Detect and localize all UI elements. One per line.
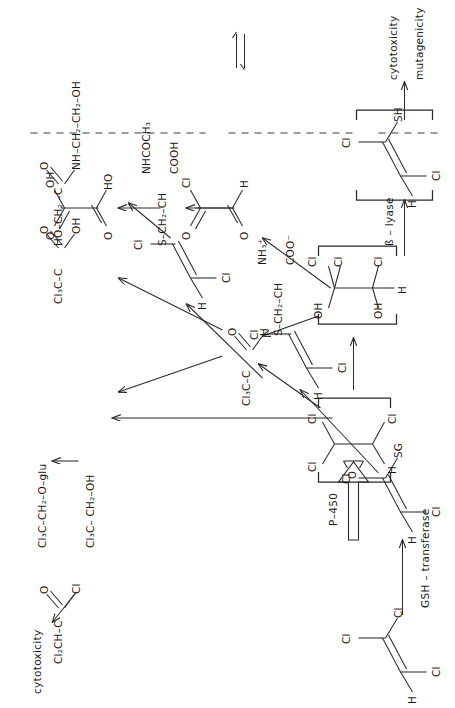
thiol-cl-b: Cl (430, 170, 441, 181)
gsh-atom-h: H (406, 536, 417, 544)
cys-cl-b: Cl (336, 362, 347, 373)
acyl-h: H (238, 180, 249, 188)
oxalic-ho: HO (102, 173, 113, 190)
merc-cl-t: Cl (132, 239, 143, 250)
p450-label: P–450 (326, 493, 338, 526)
amide-o: O (38, 162, 49, 170)
tce-atom-h: H (406, 696, 417, 704)
acyl-cl: Cl (180, 177, 191, 188)
figure-canvas: H Cl Cl Cl GSH – transferase H Cl Cl SG … (0, 0, 455, 708)
merc-acetamido-group: NHCOCH₃ (140, 122, 151, 174)
merc-h: H (196, 302, 207, 310)
epoxide-cl-br: Cl (386, 413, 397, 424)
arrow-to-acyl-chloride (262, 238, 330, 288)
cytotoxicity-left-label: cytotoxicity (30, 630, 42, 695)
gsh-transferase-label: GSH – transferase (418, 508, 430, 608)
beta-lyase-label: ß – lyase (382, 197, 394, 246)
tce-atom-cl-tr: Cl (340, 633, 351, 644)
skeleton-cysteine-conjugate (266, 331, 332, 388)
arrow-hydrate-to-chloral (262, 316, 318, 336)
skeleton-epoxide (318, 398, 390, 482)
equilibrium-arrows (232, 32, 244, 70)
cys-carboxylate-group: COO⁻ (284, 235, 295, 265)
amide-right: NH–CH₂–CH₂–OH (70, 81, 81, 170)
dca-chloride-cl: Cl (70, 583, 81, 594)
epoxide-h: H (386, 466, 397, 474)
thiol-sh: SH (392, 107, 403, 122)
cys-chain: S–CH₂–CH (272, 283, 283, 336)
trichloroethanol-formula: Cl₃C– CH₂–OH (84, 474, 95, 548)
acyl-o-bottom: O (238, 232, 249, 240)
gsh-atom-cl-bl: Cl (430, 506, 441, 517)
epoxide-oxygen: O (347, 471, 358, 479)
trichloroethanol-glucuronide-formula: Cl₃C–CH₂–O–glu (36, 464, 47, 548)
skeleton-thiol (356, 110, 432, 200)
hydrate-cl-br: Cl (372, 256, 383, 267)
cys-h: H (312, 392, 323, 400)
dca-chloride-left: Cl₂CH–C (52, 620, 63, 664)
arrow-chloral-to-trichloroethanol (118, 356, 222, 392)
chloral-o: O (226, 328, 237, 336)
mutagenicity-label: mutagenicity (412, 7, 424, 80)
acyl-o-top: O (180, 232, 191, 240)
oxalic-oh: OH (44, 171, 55, 188)
epoxide-cl-tl: Cl (306, 461, 317, 472)
tce-atom-cl-bl: Cl (430, 666, 441, 677)
cys-amino-group: NH₃⁺ (256, 239, 267, 265)
skeleton-mercapturate (150, 241, 216, 298)
hydrate-h: H (396, 286, 407, 294)
metabolism-pathway-figure: H Cl Cl Cl GSH – transferase H Cl Cl SG … (0, 0, 455, 708)
hydrate-oh-bl: OH (372, 302, 383, 319)
oxalic-o-top: O (44, 232, 55, 240)
merc-chain: S–CH₂–CH (156, 193, 167, 246)
hydrate-oh-tl: OH (312, 302, 323, 319)
arrow-cys-to-mercapturate (186, 304, 262, 378)
hydrate-cl-t1: Cl (306, 256, 317, 267)
chloral-h: H (258, 328, 269, 336)
skeleton-acyl-chloride (190, 190, 242, 229)
oxalic-o-bottom: O (102, 232, 113, 240)
skeleton-hydrate (318, 246, 396, 324)
tce-atom-cl-br: Cl (392, 607, 403, 618)
thiol-cl-t: Cl (340, 137, 351, 148)
tca-left: Cl₃C–C (52, 268, 63, 304)
gsh-atom-sg: SG (392, 443, 403, 458)
skeleton-tce (358, 618, 426, 692)
pathway-line-art (0, 0, 455, 708)
merc-cl-b: Cl (220, 272, 231, 283)
thiol-h: H (406, 200, 417, 208)
dca-chloride-o: O (38, 586, 49, 594)
epoxide-cl-tr: Cl (306, 413, 317, 424)
chloral-left: Cl₃C–C (240, 370, 251, 406)
tca-oh: OH (70, 217, 81, 234)
merc-carboxyl-group: COOH (168, 141, 179, 174)
hydrate-cl-t2: Cl (332, 256, 343, 267)
arrow-dca-to-cytotoxicity (52, 592, 76, 622)
cytotoxicity-right-label: cytotoxicity (386, 16, 398, 81)
arrow-epoxide-to-chloral (258, 364, 320, 408)
